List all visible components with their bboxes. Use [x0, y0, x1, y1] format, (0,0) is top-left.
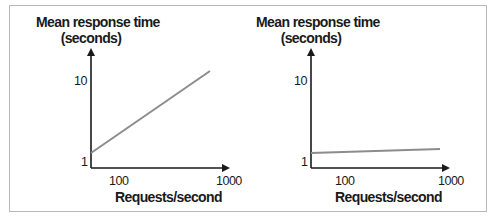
left-title-line2: (seconds): [36, 30, 146, 46]
left-y-tick-10: 10: [74, 74, 87, 88]
right-response-line: [311, 149, 440, 153]
left-y-tick-1: 1: [81, 155, 87, 169]
left-chart-title: Mean response time (seconds): [36, 14, 146, 46]
right-title-line1: Mean response time: [256, 14, 366, 30]
right-x-tick-100: 100: [335, 174, 354, 188]
right-title-line2: (seconds): [256, 30, 366, 46]
left-title-line1: Mean response time: [36, 14, 146, 30]
left-x-tick-100: 100: [109, 174, 128, 188]
left-chart-axes: [91, 50, 228, 168]
left-response-line: [91, 71, 210, 153]
right-x-tick-1000: 1000: [438, 174, 464, 188]
right-y-tick-1: 1: [301, 155, 307, 169]
left-x-label: Requests/second: [115, 189, 222, 205]
right-y-tick-10: 10: [294, 74, 307, 88]
right-chart-title: Mean response time (seconds): [256, 14, 366, 46]
left-x-tick-1000: 1000: [216, 174, 242, 188]
right-x-label: Requests/second: [335, 189, 442, 205]
